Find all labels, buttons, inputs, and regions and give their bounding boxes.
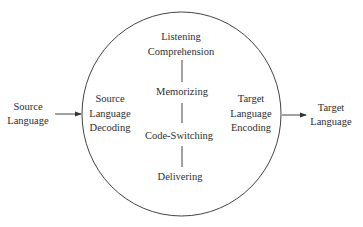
stage-delivering: Delivering bbox=[158, 171, 204, 182]
output-line-2: Language bbox=[310, 116, 352, 127]
source-language-decoding: Source Language Decoding bbox=[89, 93, 131, 133]
encoding-line-2: Language bbox=[230, 108, 272, 119]
target-language-output: Target Language bbox=[310, 102, 352, 127]
stage-2-line-1: Memorizing bbox=[156, 86, 209, 97]
input-line-1: Source bbox=[13, 101, 42, 112]
input-line-2: Language bbox=[7, 115, 49, 126]
decoding-line-3: Decoding bbox=[90, 122, 132, 133]
stage-1-line-2: Comprehension bbox=[148, 46, 215, 57]
stage-memorizing: Memorizing bbox=[156, 86, 209, 97]
source-language-input: Source Language bbox=[7, 101, 49, 126]
interpreting-process-diagram: Source Language Source Language Decoding… bbox=[0, 0, 363, 227]
output-line-1: Target bbox=[318, 102, 345, 113]
stage-1-line-1: Listening bbox=[161, 31, 201, 42]
stage-listening-comprehension: Listening Comprehension bbox=[148, 31, 215, 57]
decoding-line-2: Language bbox=[89, 108, 131, 119]
stage-3-line-1: Code-Switching bbox=[145, 130, 214, 141]
encoding-line-1: Target bbox=[238, 93, 265, 104]
decoding-line-1: Source bbox=[95, 93, 124, 104]
encoding-line-3: Encoding bbox=[231, 122, 272, 133]
stage-code-switching: Code-Switching bbox=[145, 130, 214, 141]
target-language-encoding: Target Language Encoding bbox=[230, 93, 272, 133]
stage-4-line-1: Delivering bbox=[158, 171, 204, 182]
